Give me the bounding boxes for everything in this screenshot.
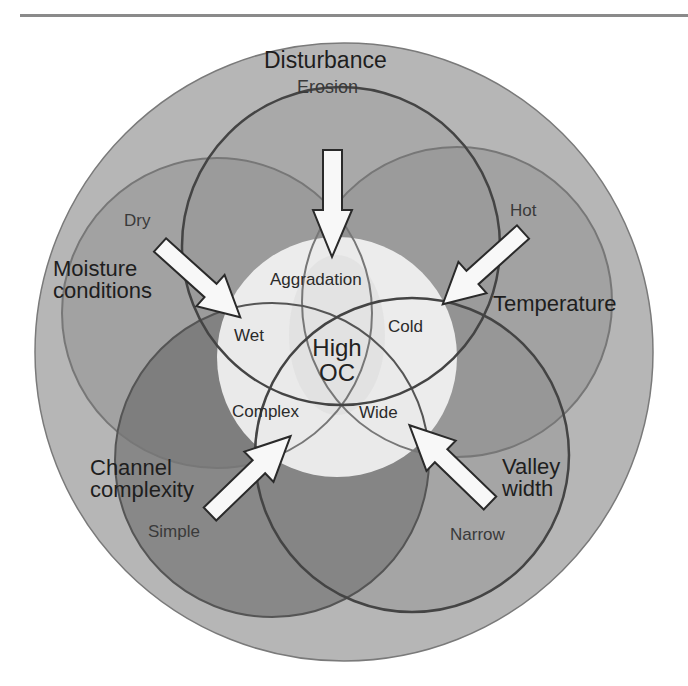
hot-label: Hot [510,202,536,219]
complex-label: Complex [232,403,299,420]
high-oc-label: High OC [305,335,369,385]
channel-complexity-label: Channel complexity [90,457,194,501]
aggradation-label: Aggradation [270,271,362,288]
valley-width-label: Valley width [502,456,560,500]
channel-label-line1: Channel [90,457,194,479]
channel-label-line2: complexity [90,479,194,501]
simple-label: Simple [148,523,200,540]
high-oc-line2: OC [305,360,369,385]
dry-label: Dry [124,212,150,229]
moisture-conditions-label: Moisture conditions [53,258,152,302]
wet-label: Wet [234,327,264,344]
moisture-label-line2: conditions [53,280,152,302]
narrow-label: Narrow [450,526,505,543]
high-oc-line1: High [305,335,369,360]
valley-label-line2: width [502,478,560,500]
temperature-label: Temperature [493,293,617,315]
wide-label: Wide [359,404,398,421]
disturbance-label: Disturbance [264,49,387,72]
cold-label: Cold [388,318,423,335]
valley-label-line1: Valley [502,456,560,478]
moisture-label-line1: Moisture [53,258,152,280]
erosion-label: Erosion [297,78,358,96]
